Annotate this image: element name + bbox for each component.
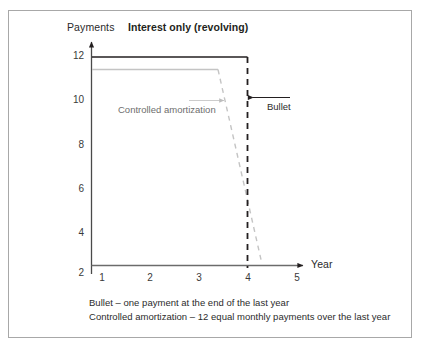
series-controlled-amortization-decline [218, 70, 262, 265]
annotation-label-bullet: Bullet [267, 101, 291, 112]
caption-line-controlled-amortization: Controlled amortization – 12 equal month… [89, 311, 390, 322]
plot-area [0, 0, 421, 348]
caption-line-bullet: Bullet – one payment at the end of the l… [89, 297, 289, 308]
annotation-label-controlled-amortization: Controlled amortization [118, 104, 216, 115]
figure-container: Payments Interest only (revolving) Year … [0, 0, 421, 348]
